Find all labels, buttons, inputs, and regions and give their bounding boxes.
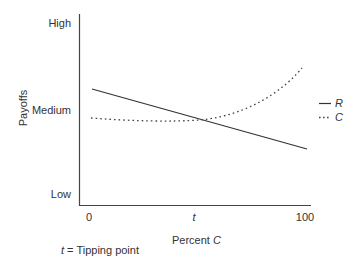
legend-r-label: R	[335, 97, 343, 109]
series-c-line	[91, 68, 302, 121]
y-tick-high: High	[48, 17, 71, 29]
y-tick-low: Low	[51, 188, 71, 200]
x-tick-t: t	[192, 211, 196, 223]
x-axis-label-prefix: Percent	[172, 234, 213, 246]
footnote: t = Tipping point	[61, 244, 139, 256]
y-axis-label: Payoffs	[17, 89, 29, 126]
x-tick-100: 100	[296, 211, 314, 223]
series-r-line	[92, 89, 307, 149]
y-tick-medium: Medium	[32, 104, 71, 116]
x-axis-label: Percent C	[172, 234, 221, 246]
legend-c-label: C	[335, 111, 343, 123]
x-tick-0: 0	[86, 211, 92, 223]
footnote-text: = Tipping point	[64, 244, 139, 256]
payoff-chart: High Medium Low Payoffs 0 t 100 Percent …	[0, 0, 359, 274]
x-axis-label-var: C	[213, 234, 221, 246]
